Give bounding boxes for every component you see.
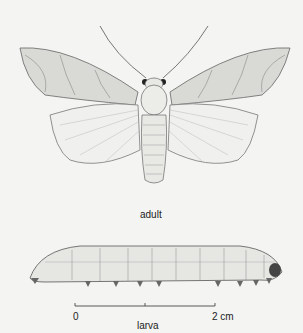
adult-label: adult [140,209,162,220]
larva-label: larva [137,320,159,331]
scale-start: 0 [73,311,79,322]
scale-end: 2 cm [212,311,234,322]
moth-illustration [0,0,303,333]
